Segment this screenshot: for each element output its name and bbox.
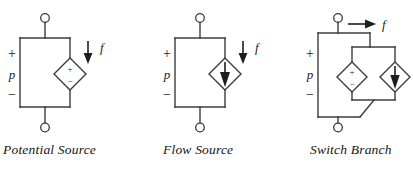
polarity-plus-label: + [163, 46, 171, 61]
effort-label: p [163, 67, 171, 82]
diagram-flow-source: f + p − [163, 14, 261, 132]
flow-arrow-head [84, 53, 93, 64]
polarity-minus-label: − [8, 87, 16, 102]
effort-label: p [306, 67, 314, 82]
flow-arrow-head [365, 20, 376, 29]
diamond-plus-symbol: + [67, 64, 72, 74]
bottom-terminal-circle [41, 123, 50, 132]
top-terminal-circle [334, 14, 343, 23]
polarity-minus-label: − [163, 87, 171, 102]
effort-label: p [8, 67, 16, 82]
flow-label: f [255, 40, 261, 55]
polarity-plus-label: + [306, 46, 314, 61]
caption-potential-source: Potential Source [3, 142, 96, 158]
diamond-minus-symbol: − [67, 76, 72, 86]
diamond-plus-symbol: + [349, 67, 354, 77]
polarity-minus-label: − [306, 87, 314, 102]
circuit-figure: + − f + p − [0, 0, 413, 172]
caption-flow-source: Flow Source [163, 142, 233, 158]
diagram-potential-source: + − f + p − [8, 14, 106, 132]
caption-switch-branch: Switch Branch [310, 142, 392, 158]
diamond-minus-symbol: − [349, 79, 354, 89]
bottom-terminal-circle [334, 123, 343, 132]
switch-blade [360, 100, 374, 117]
top-terminal-circle [196, 14, 205, 23]
flow-arrow-head [239, 53, 248, 64]
flow-label: f [100, 40, 106, 55]
bottom-terminal-circle [196, 123, 205, 132]
top-terminal-circle [41, 14, 50, 23]
diagram-switch-branch: + − f + p − [306, 14, 410, 132]
flow-label: f [382, 17, 388, 32]
polarity-plus-label: + [8, 46, 16, 61]
